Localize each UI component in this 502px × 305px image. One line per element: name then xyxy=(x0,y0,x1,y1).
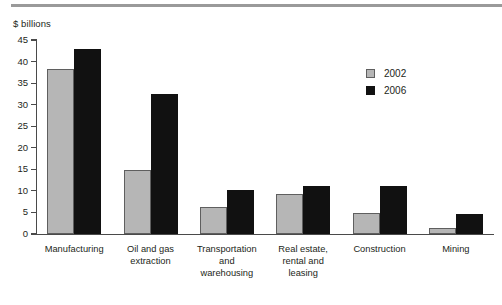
bar-2006-mining xyxy=(456,214,483,234)
x-axis-category-label-line: extraction xyxy=(106,255,194,267)
legend-swatch-2002-icon xyxy=(366,69,375,78)
bar-2006-construction xyxy=(380,186,407,234)
x-axis-category-label: Real estate,rental andleasing xyxy=(259,243,347,280)
x-axis-category-label: Transportationandwarehousing xyxy=(183,243,271,280)
x-axis-category-label: Mining xyxy=(412,243,500,255)
x-axis-category-label-line: Real estate, xyxy=(259,243,347,255)
x-axis-category-label: Manufacturing xyxy=(30,243,118,255)
legend-swatch-2006-icon xyxy=(366,86,375,95)
x-axis-category-label-line: Manufacturing xyxy=(30,243,118,255)
bar-2006-real-estate-rental-and-leasing xyxy=(303,186,330,234)
bar-2006-oil-and-gas-extraction xyxy=(151,94,178,234)
bar-2002-real-estate-rental-and-leasing xyxy=(276,194,303,234)
bar-2002-manufacturing xyxy=(47,69,74,234)
bar-2002-mining xyxy=(429,228,456,234)
x-axis-category-label-line: Transportation xyxy=(183,243,271,255)
x-axis-category-label-line: rental and xyxy=(259,255,347,267)
legend-label-2002: 2002 xyxy=(384,66,406,81)
bar-2002-oil-and-gas-extraction xyxy=(124,170,151,234)
x-axis-category-label: Oil and gasextraction xyxy=(106,243,194,267)
x-axis-category-label-line: Mining xyxy=(412,243,500,255)
x-axis-category-label: Construction xyxy=(335,243,423,255)
bar-chart: $ billions 051015202530354045 Manufactur… xyxy=(0,0,502,305)
x-axis-category-label-line: Construction xyxy=(335,243,423,255)
x-axis-category-label-line: and xyxy=(183,255,271,267)
bar-2002-construction xyxy=(353,213,380,234)
bar-2006-transportation-and-warehousing xyxy=(227,190,254,234)
legend-label-2006: 2006 xyxy=(384,83,406,98)
bar-2002-transportation-and-warehousing xyxy=(200,207,227,234)
x-axis-category-label-line: warehousing xyxy=(183,267,271,279)
x-axis-category-label-line: leasing xyxy=(259,267,347,279)
bar-2006-manufacturing xyxy=(74,49,101,234)
x-axis-category-label-line: Oil and gas xyxy=(106,243,194,255)
